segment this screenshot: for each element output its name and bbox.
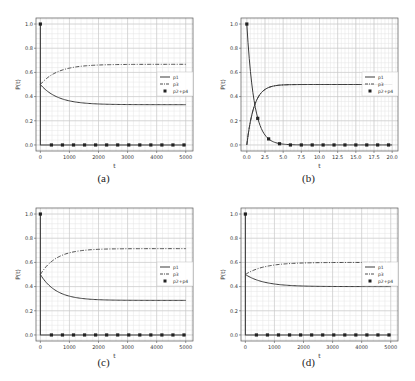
y-tick-label: 0.8 [230,45,238,51]
x-tick-label: 20.0 [387,154,398,160]
x-tick-label: 15.0 [350,154,361,160]
x-tick-label: 12.5 [332,154,343,160]
p2p4-marker [116,143,119,146]
p2p4-marker [255,333,258,336]
p2p4-marker [72,143,75,146]
x-tick-label: 0 [39,344,42,350]
y-tick-label: 1.0 [230,211,238,217]
x-tick-label: 3000 [326,344,339,350]
y-tick-label: 1.0 [25,211,33,217]
y-tick-label: 0.4 [25,283,33,289]
y-tick-label: 0.0 [230,332,238,338]
y-tick-label: 0.2 [25,308,33,314]
subplot-d: 0100020003000400050000.00.20.40.60.81.0t… [205,190,412,380]
p2p4-marker [300,143,303,146]
x-tick-label: 10.0 [314,154,325,160]
y-tick-label: 0.6 [25,259,33,265]
x-tick-label: 5000 [384,344,397,350]
p2p4-marker [50,143,53,146]
y-axis-label: P(t) [219,79,226,90]
subplot-a: 0100020003000400050000.00.20.40.60.81.0t… [0,0,207,190]
y-tick-label: 0.0 [25,142,33,148]
x-tick-label: 1000 [268,344,281,350]
p2p4-marker [149,333,152,336]
y-tick-label: 0.6 [230,69,238,75]
x-tick-label: 5.0 [279,154,287,160]
p2p4-marker [138,143,141,146]
x-tick-label: 4000 [355,344,368,350]
caption-c: (c) [0,356,207,368]
p2p4-marker [332,143,335,146]
x-tick-label: 4000 [150,344,163,350]
y-tick-label: 1.0 [25,21,33,27]
y-tick-label: 0.2 [25,118,33,124]
legend-label: p2+p4 [173,279,188,284]
x-tick-label: 5000 [179,344,192,350]
legend-label: p2+p4 [378,89,393,94]
legend-label: p1 [173,265,179,270]
y-tick-label: 1.0 [230,21,238,27]
p2p4-marker [354,143,357,146]
legend-label: p1 [173,75,179,80]
p2p4-marker [387,143,390,146]
x-tick-label: 5000 [179,154,192,160]
x-axis-label: t [113,162,116,169]
x-tick-label: 0 [244,344,247,350]
legend-p2p4-swatch [164,90,167,93]
caption-d: (d) [205,356,412,368]
p2p4-marker [83,333,86,336]
legend: p1p3p2+p4 [157,72,193,96]
p2p4-marker [310,333,313,336]
p2p4-marker [288,333,291,336]
p2p4-marker [343,333,346,336]
x-tick-label: 0.0 [243,154,251,160]
p2p4-marker [127,143,130,146]
x-tick-label: 1000 [63,344,76,350]
y-axis-label: P(t) [14,79,21,90]
p2p4-marker [354,333,357,336]
p2p4-marker [244,212,247,215]
legend-p2p4-swatch [369,90,372,93]
legend: p1p3p2+p4 [157,262,193,286]
p2p4-marker [322,143,325,146]
y-axis-label: P(t) [219,269,226,280]
p2p4-marker [61,143,64,146]
p2p4-marker [94,333,97,336]
x-tick-label: 17.5 [368,154,379,160]
p2p4-marker [376,333,379,336]
y-tick-label: 0.0 [25,332,33,338]
legend-label: p2+p4 [378,279,393,284]
x-axis-label: t [318,162,321,169]
chart-d-svg: 0100020003000400050000.00.20.40.60.81.0t… [205,190,412,360]
legend-label: p3 [173,272,179,277]
chart-a-svg: 0100020003000400050000.00.20.40.60.81.0t… [0,0,207,170]
p2p4-marker [72,333,75,336]
chart-c-svg: 0100020003000400050000.00.20.40.60.81.0t… [0,190,207,360]
p2p4-marker [343,143,346,146]
p2p4-marker [182,143,185,146]
x-tick-label: 1000 [63,154,76,160]
p2p4-marker [299,333,302,336]
p2p4-marker [94,143,97,146]
p2p4-marker [376,143,379,146]
p2p4-marker [365,333,368,336]
subplot-c: 0100020003000400050000.00.20.40.60.81.0t… [0,190,207,380]
p2p4-marker [83,143,86,146]
y-tick-label: 0.6 [25,69,33,75]
p2p4-marker [256,117,259,120]
p2p4-marker [105,333,108,336]
p2p4-marker [138,333,141,336]
p2p4-marker [365,143,368,146]
p2p4-marker [245,22,248,25]
legend-label: p2+p4 [173,89,188,94]
x-tick-label: 2000 [297,344,310,350]
y-tick-label: 0.8 [25,235,33,241]
chart-b-svg: 0.02.55.07.510.012.515.017.520.00.00.20.… [205,0,412,170]
y-tick-label: 0.8 [230,235,238,241]
x-tick-label: 0 [39,154,42,160]
p2p4-marker [267,137,270,140]
p2p4-marker [127,333,130,336]
x-tick-label: 4000 [150,154,163,160]
y-tick-label: 0.2 [230,308,238,314]
p2p4-marker [387,333,390,336]
